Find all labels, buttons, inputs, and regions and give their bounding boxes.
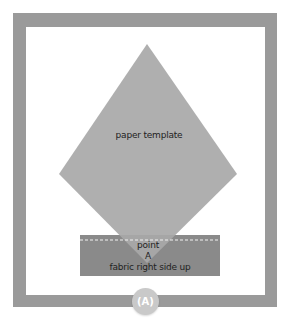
diagram-art [0,0,289,321]
point-letter-label: A [145,251,151,261]
figure-badge: (A) [132,288,159,315]
point-label: point [137,240,159,250]
paper-template-label: paper template [116,130,183,140]
fabric-label: fabric right side up [109,262,190,272]
paper-template-diamond [59,44,237,263]
